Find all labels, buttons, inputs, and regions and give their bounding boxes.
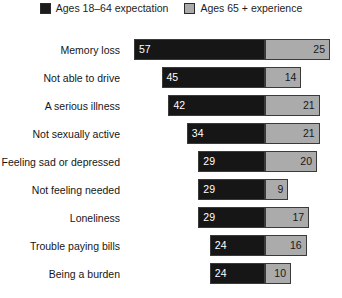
bar-expectation: 29 [198,207,265,228]
row-bars: 4514 [0,67,342,89]
bar-experience: 21 [265,123,320,144]
chart-row: Loneliness2917 [0,207,342,235]
bar-experience: 20 [265,151,317,172]
legend-swatch-expectation-icon [40,3,51,14]
legend-label-expectation: Ages 18–64 expectation [56,3,169,14]
chart-rows: Memory loss5725Not able to drive4514A se… [0,39,342,291]
bar-value-expectation: 24 [211,240,231,251]
legend-swatch-experience-icon [184,3,195,14]
row-bars: 2917 [0,207,342,229]
legend-entry-experience: Ages 65 + experience [184,3,302,14]
row-bars: 5725 [0,39,342,61]
bar-value-experience: 9 [274,184,288,195]
row-bars: 4221 [0,95,342,117]
bar-expectation: 29 [198,179,265,200]
bar-experience: 16 [265,235,307,256]
bar-value-expectation: 42 [169,100,189,111]
bar-value-experience: 16 [286,240,306,251]
bar-value-expectation: 24 [211,268,231,279]
chart-row: Not feeling needed299 [0,179,342,207]
row-bars: 3421 [0,123,342,145]
bar-experience: 14 [265,67,301,88]
bar-value-experience: 21 [299,128,319,139]
bar-expectation: 29 [198,151,265,172]
bar-value-experience: 10 [270,268,290,279]
bar-expectation: 57 [134,39,265,60]
bar-expectation: 34 [187,123,265,144]
bar-experience: 9 [265,179,288,200]
bar-experience: 10 [265,263,291,284]
chart-row: Not able to drive4514 [0,67,342,95]
chart-row: Being a burden2410 [0,263,342,291]
bar-value-expectation: 29 [199,184,219,195]
row-bars: 2416 [0,235,342,257]
row-bars: 2410 [0,263,342,285]
legend-entry-expectation: Ages 18–64 expectation [40,3,169,14]
chart-row: Not sexually active3421 [0,123,342,151]
bar-expectation: 24 [210,235,265,256]
bar-value-experience: 20 [296,156,316,167]
bar-experience: 17 [265,207,309,228]
chart-row: Memory loss5725 [0,39,342,67]
legend-label-experience: Ages 65 + experience [200,3,302,14]
bar-experience: 21 [265,95,320,116]
row-bars: 299 [0,179,342,201]
bar-value-experience: 25 [309,44,329,55]
bar-value-expectation: 34 [188,128,208,139]
row-bars: 2920 [0,151,342,173]
chart-legend: Ages 18–64 expectation Ages 65 + experie… [0,3,342,14]
bar-value-experience: 21 [299,100,319,111]
bar-expectation: 42 [168,95,265,116]
chart-row: Trouble paying bills2416 [0,235,342,263]
bar-expectation: 24 [210,263,265,284]
bar-value-expectation: 45 [163,72,183,83]
diverging-bar-chart: Ages 18–64 expectation Ages 65 + experie… [0,0,342,298]
bar-value-expectation: 29 [199,156,219,167]
chart-row: A serious illness4221 [0,95,342,123]
bar-value-expectation: 57 [135,44,155,55]
bar-value-expectation: 29 [199,212,219,223]
bar-experience: 25 [265,39,330,60]
bar-value-experience: 17 [289,212,309,223]
chart-row: Feeling sad or depressed2920 [0,151,342,179]
bar-expectation: 45 [162,67,266,88]
bar-value-experience: 14 [281,72,301,83]
